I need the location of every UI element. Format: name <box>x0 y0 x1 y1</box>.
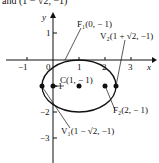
label-vertex-2: V₂(1 + √2, −1) <box>100 31 153 41</box>
y-tick: 1 <box>46 28 51 38</box>
x-tick: 1 <box>77 62 82 72</box>
x-tick: 2 <box>102 62 107 72</box>
x-tick: 0 <box>46 62 51 72</box>
figure: and (1 − √2, −1) y x −1 0 1 <box>0 0 159 163</box>
label-focus-2: F₂(2, − 1) <box>113 105 148 115</box>
y-tick: −3 <box>40 133 50 143</box>
label-center: C(1, − 1) <box>60 75 93 85</box>
y-axis-label: y <box>42 12 46 22</box>
x-axis-label: x <box>147 62 151 72</box>
y-tick: −2 <box>40 107 50 117</box>
label-focus-1: F₁(0, − 1) <box>77 19 112 29</box>
x-tick: 3 <box>128 62 133 72</box>
label-vertex-1: V₁(1 − √2, −1) <box>61 126 114 136</box>
x-tick: −1 <box>18 62 28 72</box>
